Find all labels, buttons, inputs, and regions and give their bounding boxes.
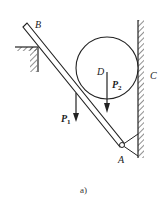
pin-a	[120, 143, 125, 148]
force-p1-arrow	[73, 93, 79, 122]
pin-bracket	[120, 134, 139, 156]
label-a: A	[117, 154, 125, 165]
label-b: B	[35, 19, 41, 30]
label-p1: P1	[61, 113, 71, 126]
fixed-ledge	[15, 47, 38, 72]
label-d: D	[96, 66, 105, 77]
wall-c	[138, 20, 144, 158]
statics-diagram: B D C A P1 P2 a)	[0, 0, 168, 204]
figure-caption: a)	[80, 185, 87, 195]
label-c: C	[150, 70, 157, 81]
